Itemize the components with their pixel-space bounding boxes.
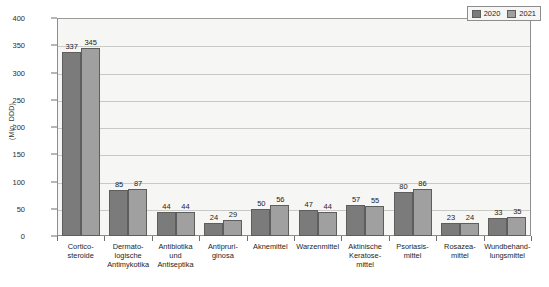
bar-2021[interactable] — [223, 220, 242, 236]
bar-2020[interactable] — [109, 190, 128, 236]
bar-value-label: 29 — [220, 210, 246, 219]
bar-value-label: 44 — [173, 202, 199, 211]
bar-value-label: 345 — [78, 38, 104, 47]
bar-2021[interactable] — [460, 223, 479, 236]
y-tick-label: 100 — [0, 177, 25, 186]
x-axis-label-line: Antiseptika — [146, 260, 205, 269]
x-tick-mark — [389, 236, 390, 241]
bar-2020[interactable] — [346, 205, 365, 236]
bar-group: 2324 — [441, 18, 479, 236]
x-axis-label-line: mittel — [335, 260, 394, 269]
legend-label-2021: 2021 — [519, 9, 536, 18]
y-tick-label: 400 — [0, 14, 25, 23]
y-tick-label: 300 — [0, 68, 25, 77]
legend-label-2020: 2020 — [484, 9, 501, 18]
x-tick-mark — [57, 236, 58, 241]
bar-group: 4444 — [157, 18, 195, 236]
bar-group: 4744 — [299, 18, 337, 236]
legend-item-2021[interactable]: 2021 — [507, 9, 536, 18]
bar-2021[interactable] — [128, 189, 147, 236]
x-tick-mark — [341, 236, 342, 241]
y-tick-label: 250 — [0, 95, 25, 104]
x-tick-mark — [247, 236, 248, 241]
bar-value-label: 87 — [125, 179, 151, 188]
legend: 2020 2021 — [467, 6, 541, 21]
bar-group: 8086 — [394, 18, 432, 236]
bar-2020[interactable] — [157, 212, 176, 236]
bar-2020[interactable] — [488, 218, 507, 236]
bar-value-label: 86 — [410, 179, 436, 188]
bar-2020[interactable] — [251, 209, 270, 236]
legend-item-2020[interactable]: 2020 — [472, 9, 501, 18]
bar-2021[interactable] — [365, 206, 384, 236]
legend-swatch-2020 — [472, 10, 481, 18]
bar-group: 337345 — [62, 18, 100, 236]
bar-value-label: 55 — [362, 196, 388, 205]
bar-group: 5056 — [251, 18, 289, 236]
bar-2020[interactable] — [299, 210, 318, 236]
y-tick-label: 200 — [0, 123, 25, 132]
y-tick-label: 50 — [0, 204, 25, 213]
x-tick-mark — [104, 236, 105, 241]
x-tick-mark — [152, 236, 153, 241]
bar-2021[interactable] — [413, 189, 432, 236]
bar-2020[interactable] — [394, 192, 413, 236]
bar-2021[interactable] — [318, 212, 337, 236]
bar-value-label: 24 — [457, 213, 483, 222]
bar-2021[interactable] — [81, 48, 100, 236]
bar-group: 5755 — [346, 18, 384, 236]
bar-value-label: 56 — [267, 195, 293, 204]
legend-swatch-2021 — [507, 10, 516, 18]
bar-group: 3335 — [488, 18, 526, 236]
bars-layer: 3373458587444424295056474457558086232433… — [57, 18, 531, 236]
y-tick-label: 150 — [0, 150, 25, 159]
x-tick-mark — [436, 236, 437, 241]
x-tick-mark — [531, 236, 532, 241]
bar-value-label: 44 — [315, 202, 341, 211]
bar-2021[interactable] — [270, 205, 289, 236]
x-axis-label: Wundbehand-lungsmittel — [478, 242, 537, 260]
x-axis-label-line: lungsmittel — [478, 251, 537, 260]
x-tick-mark — [484, 236, 485, 241]
bar-group: 2429 — [204, 18, 242, 236]
x-tick-mark — [199, 236, 200, 241]
y-tick-label: 350 — [0, 41, 25, 50]
bar-2020[interactable] — [62, 52, 81, 236]
bar-group: 8587 — [109, 18, 147, 236]
bar-value-label: 35 — [504, 207, 530, 216]
bar-2021[interactable] — [507, 217, 526, 236]
y-tick-label: 0 — [0, 232, 25, 241]
x-tick-mark — [294, 236, 295, 241]
bar-2020[interactable] — [204, 223, 223, 236]
bar-2020[interactable] — [441, 223, 460, 236]
bar-2021[interactable] — [176, 212, 195, 236]
bar-chart: (Mio. DDD) 400350300250200150100500 3373… — [0, 0, 549, 287]
x-axis-label-line: ginosa — [193, 251, 252, 260]
x-axis-label-line: Wundbehand- — [478, 242, 537, 251]
